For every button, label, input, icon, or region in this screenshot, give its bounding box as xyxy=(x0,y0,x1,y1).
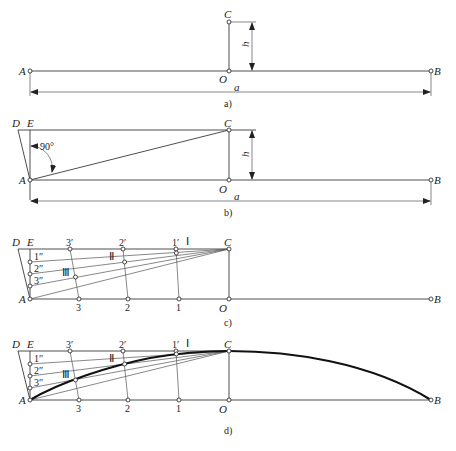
point-c xyxy=(227,20,231,24)
label-2p: 2′ xyxy=(119,339,126,350)
point-ii xyxy=(123,260,127,264)
ray-c-2pp xyxy=(30,249,229,274)
label-o: O xyxy=(219,183,227,195)
point-o xyxy=(227,69,231,73)
label-o: O xyxy=(219,302,227,314)
label-1p: 1′ xyxy=(172,339,179,350)
ray-c-a xyxy=(30,351,229,400)
ray-c-a xyxy=(30,249,229,299)
label-3p: 3′ xyxy=(66,237,73,248)
division-2 xyxy=(123,249,128,299)
label-3: 3 xyxy=(76,302,81,313)
division-1 xyxy=(176,351,179,400)
label-roman-i: Ⅰ xyxy=(186,337,189,349)
caption-b: b) xyxy=(224,207,232,219)
panel-d: D E A B C O 3′ 2′ 1′ Ⅰ Ⅱ Ⅲ 1″ 2″ 3″ 3 2 … xyxy=(11,337,441,437)
label-1: 1 xyxy=(176,403,181,414)
point-1 xyxy=(177,297,181,301)
label-2: 2 xyxy=(125,302,130,313)
label-c: C xyxy=(224,117,232,129)
label-h: h xyxy=(239,41,251,47)
panel-a: A B C O h a a) xyxy=(18,8,441,110)
label-2p: 2′ xyxy=(119,237,126,248)
label-c: C xyxy=(224,8,232,20)
point-a xyxy=(28,69,32,73)
label-roman-iii: Ⅲ xyxy=(62,266,70,278)
point-iii xyxy=(74,275,78,279)
label-b: B xyxy=(434,174,441,186)
ray-c-3pp xyxy=(30,249,229,286)
label-a: A xyxy=(18,293,26,305)
point-b xyxy=(429,178,433,182)
label-3pp: 3″ xyxy=(34,275,43,286)
division-3 xyxy=(70,249,79,299)
label-b: B xyxy=(434,394,441,406)
label-c: C xyxy=(224,338,232,350)
label-1pp: 1″ xyxy=(34,251,43,262)
division-1 xyxy=(176,249,179,299)
label-roman-iii: Ⅲ xyxy=(62,368,70,380)
label-b: B xyxy=(434,293,441,305)
label-d: D xyxy=(11,338,20,350)
label-d: D xyxy=(11,117,20,129)
ray-c-3pp xyxy=(30,351,229,388)
label-angle-90: 90° xyxy=(40,141,54,152)
chord-ac xyxy=(30,130,229,180)
point-1pp xyxy=(28,260,32,264)
ray-c-1pp xyxy=(30,249,229,262)
caption-c: c) xyxy=(224,317,232,329)
label-2pp: 2″ xyxy=(34,365,43,376)
label-a-dim: a xyxy=(234,81,240,93)
constructed-arc xyxy=(30,351,431,400)
label-1: 1 xyxy=(176,302,181,313)
point-b xyxy=(429,69,433,73)
point-a xyxy=(28,297,32,301)
label-e: E xyxy=(26,236,34,248)
point-b xyxy=(429,297,433,301)
label-3p: 3′ xyxy=(66,339,73,350)
label-1pp: 1″ xyxy=(34,353,43,364)
point-1 xyxy=(177,398,181,402)
label-e: E xyxy=(26,117,34,129)
point-1pp xyxy=(28,362,32,366)
arc-construction-diagram: A B C O h a a) D E A B C O h a 90° b) xyxy=(0,0,456,451)
label-o: O xyxy=(219,73,227,85)
label-c: C xyxy=(224,236,232,248)
point-3 xyxy=(77,297,81,301)
point-3pp xyxy=(28,386,32,390)
point-2pp xyxy=(28,374,32,378)
panel-b: D E A B C O h a 90° b) xyxy=(11,117,441,219)
point-iii xyxy=(74,378,78,382)
caption-a: a) xyxy=(224,98,232,110)
caption-d: d) xyxy=(224,425,232,437)
point-3pp xyxy=(28,284,32,288)
point-a xyxy=(28,398,32,402)
label-2pp: 2″ xyxy=(34,263,43,274)
label-3pp: 3″ xyxy=(34,377,43,388)
label-roman-ii: Ⅱ xyxy=(109,250,114,262)
label-1p: 1′ xyxy=(172,237,179,248)
point-2 xyxy=(126,398,130,402)
label-e: E xyxy=(26,338,34,350)
point-ii xyxy=(123,362,127,366)
label-a: A xyxy=(18,65,26,77)
label-a: A xyxy=(18,174,26,186)
point-o xyxy=(227,398,231,402)
label-roman-ii: Ⅱ xyxy=(109,352,114,364)
line-ad xyxy=(18,130,30,180)
label-2: 2 xyxy=(125,403,130,414)
point-i xyxy=(174,251,178,255)
point-o xyxy=(227,178,231,182)
point-b xyxy=(429,398,433,402)
label-a-dim: a xyxy=(234,190,240,202)
point-a xyxy=(28,178,32,182)
panel-c: D E A B C O 3′ 2′ 1′ Ⅰ Ⅱ Ⅲ 1″ 2″ 3″ 3 2 … xyxy=(11,235,441,329)
label-o: O xyxy=(219,403,227,415)
division-3 xyxy=(70,351,79,400)
label-3: 3 xyxy=(76,403,81,414)
point-2 xyxy=(126,297,130,301)
label-a: A xyxy=(18,394,26,406)
point-2pp xyxy=(28,272,32,276)
label-h: h xyxy=(239,151,251,157)
label-d: D xyxy=(11,236,20,248)
